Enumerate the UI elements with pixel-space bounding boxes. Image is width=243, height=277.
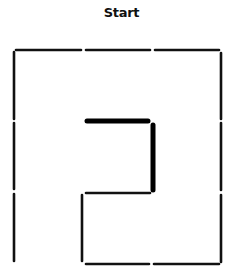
maze-diagram: [0, 0, 243, 277]
highlighted-path: [87, 121, 153, 190]
maze-walls: [14, 50, 221, 264]
